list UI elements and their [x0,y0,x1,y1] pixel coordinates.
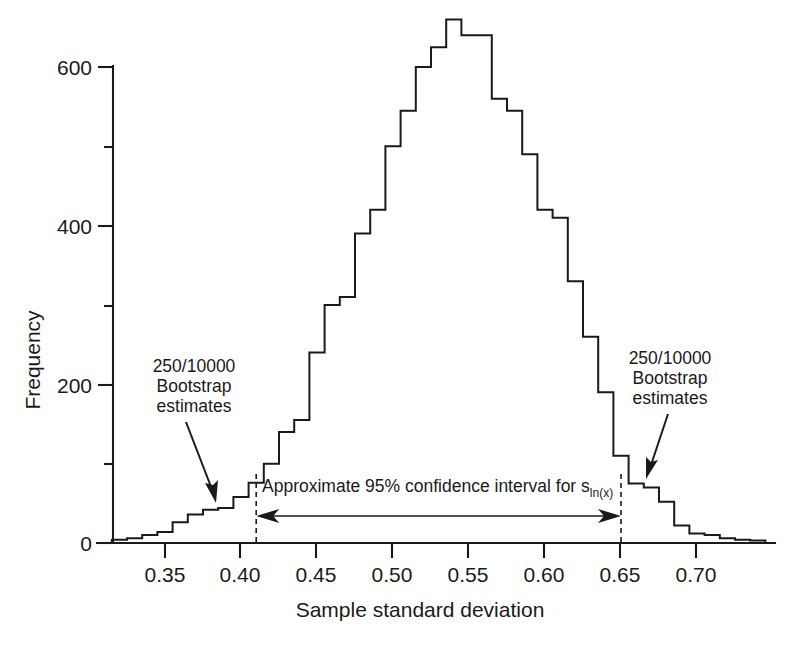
y-tick-label-600: 600 [57,56,92,79]
left-bootstrap-annotation: 250/10000 Bootstrap estimates [153,356,236,503]
ci-label: Approximate 95% confidence interval for … [262,476,613,500]
left-note-line-3: estimates [157,396,232,416]
x-tick-label-3: 0.50 [372,563,413,586]
x-tick-label-6: 0.65 [600,563,641,586]
chart-canvas: 600 400 200 0 Frequency 0.35 0.40 0.45 0… [0,0,787,645]
ci-label-text: Approximate 95% confidence interval for … [262,476,590,496]
y-axis-title: Frequency [21,310,44,410]
histogram-figure: 600 400 200 0 Frequency 0.35 0.40 0.45 0… [0,0,787,645]
y-axis-minor-ticks [104,147,113,464]
right-note-line-2: Bootstrap [633,368,708,388]
x-tick-label-1: 0.40 [220,563,261,586]
y-tick-label-400: 400 [57,215,92,238]
histogram-outline [112,19,766,543]
right-bootstrap-annotation: 250/10000 Bootstrap estimates [629,348,712,479]
x-tick-label-5: 0.60 [524,563,565,586]
x-tick-label-7: 0.70 [676,563,717,586]
ci-label-subscript: ln(x) [590,486,613,500]
y-tick-label-200: 200 [57,374,92,397]
left-note-arrow-head [205,480,218,503]
x-axis-title: Sample standard deviation [296,598,545,621]
x-tick-label-2: 0.45 [296,563,337,586]
left-note-line-1: 250/10000 [153,356,236,376]
x-axis-ticks [165,543,696,558]
right-note-line-3: estimates [633,388,708,408]
right-note-leader [650,414,668,468]
left-note-line-2: Bootstrap [157,376,232,396]
y-tick-label-0: 0 [80,532,92,555]
x-tick-label-4: 0.55 [448,563,489,586]
right-note-line-1: 250/10000 [629,348,712,368]
confidence-interval-group: Approximate 95% confidence interval for … [256,474,621,546]
left-note-leader [186,422,213,492]
x-tick-label-0: 0.35 [145,563,186,586]
